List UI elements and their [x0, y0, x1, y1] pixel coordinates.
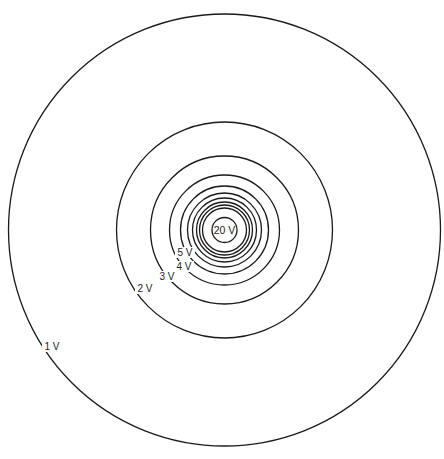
- equipotential-diagram: 1 V2 V3 V4 V5 V20 V: [0, 0, 444, 459]
- label-3v: 3 V: [159, 271, 174, 282]
- label-1v: 1 V: [44, 341, 59, 352]
- label-4v: 4 V: [176, 261, 191, 272]
- label-2v: 2 V: [137, 283, 152, 294]
- label-20v: 20 V: [214, 224, 236, 236]
- label-5v: 5 V: [177, 247, 192, 258]
